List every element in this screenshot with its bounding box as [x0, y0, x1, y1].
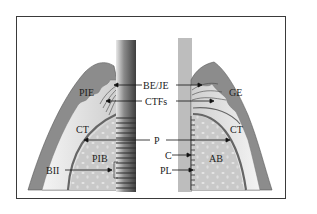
- label-c: C: [165, 150, 172, 161]
- label-pib: PIB: [92, 153, 108, 164]
- label-ge: GE: [229, 87, 242, 98]
- implant-threads: [116, 118, 136, 188]
- label-pl: PL: [160, 165, 172, 176]
- label-ctfs: CTFs: [145, 96, 167, 107]
- label-ct-right: CT: [230, 124, 243, 135]
- label-ct-left: CT: [76, 124, 89, 135]
- dental-tissue-diagram: PIE BE/JE CTFs GE CT CT P PIB AB C BII P…: [0, 0, 317, 214]
- label-p: P: [154, 135, 160, 146]
- label-bii: BII: [46, 165, 59, 176]
- label-be-je: BE/JE: [143, 80, 169, 91]
- label-pie: PIE: [79, 87, 94, 98]
- label-ab: AB: [209, 153, 223, 164]
- implant-body: [116, 40, 136, 192]
